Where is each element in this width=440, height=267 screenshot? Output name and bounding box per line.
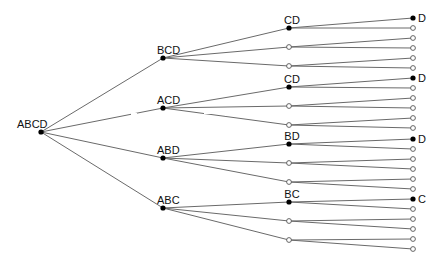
edge-level2-to-leaf: [289, 219, 413, 221]
edge-level1-to-level2: [163, 28, 289, 58]
edge-level1-to-level2: [163, 208, 289, 240]
edge-level1-to-level2: [163, 87, 289, 108]
leaf-node-d: [410, 136, 415, 141]
edge-level2-to-leaf: [289, 118, 413, 125]
edge-level2-to-leaf: [289, 139, 413, 144]
node-label-acd: ACD: [157, 94, 180, 106]
node-label-abd: ABD: [157, 144, 180, 156]
empty-leaf-node: [411, 167, 416, 172]
edge-level2-to-leaf: [289, 144, 413, 149]
empty-node: [287, 64, 292, 69]
edge-level2-to-leaf: [289, 240, 413, 249]
edge-level2-to-leaf: [289, 47, 413, 48]
edge-level2-to-leaf: [289, 106, 413, 108]
node-abc: [160, 205, 165, 210]
edge-level2-to-leaf: [289, 125, 413, 128]
edge-level2-to-leaf: [289, 182, 413, 189]
empty-leaf-node: [411, 86, 416, 91]
node-label-abc: ABC: [157, 194, 180, 206]
edge-root-to-abd: [41, 132, 163, 158]
empty-leaf-node: [411, 157, 416, 162]
tree-diagram: ABCDBCDACDABDABCCDCDBDBCDDDC: [0, 0, 440, 267]
edge-level1-to-level2: [163, 158, 289, 163]
leaf-label-d: D: [418, 12, 426, 24]
empty-leaf-node: [411, 177, 416, 182]
node-cd: [286, 84, 291, 89]
edge-level2-to-leaf: [289, 163, 413, 169]
edge-level2-to-leaf: [289, 66, 413, 68]
edge-level2-to-leaf: [289, 87, 413, 88]
node-label-bcd: BCD: [157, 44, 180, 56]
edge-level2-to-leaf: [289, 98, 413, 106]
line-gap: [131, 113, 137, 116]
empty-leaf-node: [411, 46, 416, 51]
edge-level2-to-leaf: [289, 159, 413, 163]
edge-level2-to-leaf: [289, 179, 413, 182]
edge-level1-to-level2: [163, 158, 289, 182]
tree-edges: [41, 18, 413, 249]
edge-level1-to-level2: [163, 47, 289, 58]
edge-level2-to-leaf: [289, 221, 413, 229]
tree-nodes: [38, 15, 415, 251]
empty-node: [287, 45, 292, 50]
edge-level1-to-level2: [163, 202, 289, 208]
edge-level2-to-leaf: [289, 202, 413, 209]
leaf-label-d: D: [418, 72, 426, 84]
edge-root-to-abc: [41, 132, 163, 208]
empty-leaf-node: [411, 66, 416, 71]
empty-node: [287, 161, 292, 166]
edge-level2-to-leaf: [289, 199, 413, 202]
empty-leaf-node: [411, 56, 416, 61]
edge-root-to-bcd: [41, 58, 163, 132]
empty-leaf-node: [411, 227, 416, 232]
line-gap: [204, 111, 212, 114]
edge-level1-to-level2: [163, 144, 289, 158]
edge-level2-to-leaf: [289, 58, 413, 66]
edge-root-to-acd: [41, 108, 163, 132]
empty-leaf-node: [411, 207, 416, 212]
root-label: ABCD: [17, 118, 48, 130]
node-label-bc: BC: [284, 188, 299, 200]
leaf-label-d: D: [418, 133, 426, 145]
empty-node: [287, 219, 292, 224]
leaf-node-d: [410, 75, 415, 80]
edge-level2-to-leaf: [289, 18, 413, 28]
leaf-node-d: [410, 15, 415, 20]
root-node: [38, 129, 43, 134]
edge-level1-to-level2: [163, 208, 289, 221]
node-label-cd: CD: [284, 14, 300, 26]
node-acd: [160, 105, 165, 110]
empty-leaf-node: [411, 126, 416, 131]
empty-node: [287, 104, 292, 109]
empty-leaf-node: [411, 247, 416, 252]
line-gap: [225, 113, 231, 116]
leaf-label-c: C: [418, 193, 426, 205]
empty-leaf-node: [411, 96, 416, 101]
node-bcd: [160, 55, 165, 60]
edge-level2-to-leaf: [289, 78, 413, 87]
empty-leaf-node: [411, 106, 416, 111]
empty-leaf-node: [411, 217, 416, 222]
edge-level1-to-level2: [163, 106, 289, 108]
node-abd: [160, 155, 165, 160]
node-label-bd: BD: [284, 130, 299, 142]
empty-node: [287, 123, 292, 128]
node-bd: [286, 141, 291, 146]
empty-leaf-node: [411, 26, 416, 31]
leaf-node-c: [410, 196, 415, 201]
empty-node: [287, 180, 292, 185]
node-bc: [286, 199, 291, 204]
edge-level2-to-leaf: [289, 239, 413, 240]
edge-level1-to-level2: [163, 108, 289, 125]
empty-leaf-node: [411, 237, 416, 242]
node-label-cd: CD: [284, 73, 300, 85]
empty-leaf-node: [411, 116, 416, 121]
edge-level2-to-leaf: [289, 38, 413, 47]
edge-level1-to-level2: [163, 58, 289, 66]
empty-leaf-node: [411, 36, 416, 41]
empty-leaf-node: [411, 187, 416, 192]
node-cd: [286, 25, 291, 30]
empty-leaf-node: [411, 147, 416, 152]
empty-node: [287, 238, 292, 243]
